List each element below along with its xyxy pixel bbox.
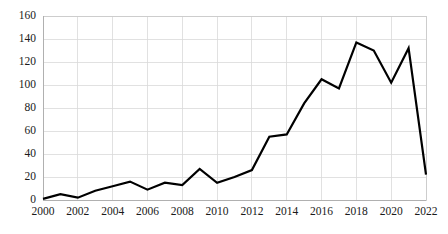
x-tick-label: 2016 (310, 205, 333, 217)
x-tick-label: 2008 (171, 205, 194, 217)
chart-background (0, 0, 448, 234)
chart-canvas: 020406080100120140160 200020022004200620… (0, 0, 448, 234)
x-tick-label: 2000 (32, 205, 55, 217)
line-chart: 020406080100120140160 200020022004200620… (0, 0, 448, 234)
y-tick-label: 160 (19, 9, 37, 21)
x-tick-label: 2012 (240, 205, 263, 217)
x-tick-label: 2022 (415, 205, 438, 217)
x-tick-label: 2020 (380, 205, 403, 217)
x-tick-label: 2002 (66, 205, 89, 217)
y-tick-label: 40 (25, 147, 37, 159)
y-tick-label: 20 (25, 170, 37, 182)
x-tick-label: 2014 (275, 205, 298, 217)
y-tick-label: 0 (30, 193, 36, 205)
x-tick-label: 2018 (345, 205, 368, 217)
y-tick-label: 80 (25, 101, 37, 113)
y-tick-label: 100 (19, 78, 37, 90)
x-tick-label: 2004 (101, 205, 124, 217)
x-tick-label: 2010 (206, 205, 229, 217)
y-tick-label: 120 (19, 55, 37, 67)
y-tick-label: 140 (19, 32, 37, 44)
y-tick-label: 60 (25, 124, 37, 136)
x-tick-label: 2006 (136, 205, 159, 217)
